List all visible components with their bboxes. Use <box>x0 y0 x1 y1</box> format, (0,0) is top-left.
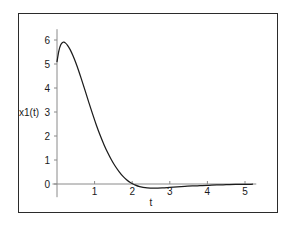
y-axis-title: x1(t) <box>19 107 39 118</box>
x-axis-title: t <box>150 197 153 208</box>
y-tick-label: 2 <box>44 131 50 142</box>
y-tick-label: 6 <box>44 35 50 46</box>
x-axis-ticks: 12345 <box>92 181 248 197</box>
y-tick-label: 3 <box>44 107 50 118</box>
x-tick-label: 1 <box>92 186 98 197</box>
y-axis-ticks: 0123456 <box>44 35 57 190</box>
y-tick-label: 5 <box>44 59 50 70</box>
data-series-group <box>57 42 253 188</box>
figure-root: 12345 0123456 t x1(t) <box>0 0 295 227</box>
x-tick-label: 2 <box>129 186 135 197</box>
chart-canvas: 12345 0123456 t x1(t) <box>0 0 295 227</box>
y-tick-label: 4 <box>44 83 50 94</box>
x-tick-label: 4 <box>205 186 211 197</box>
axes-group <box>52 29 256 197</box>
y-tick-label: 1 <box>44 155 50 166</box>
data-curve-x1 <box>57 42 253 188</box>
y-tick-label: 0 <box>44 179 50 190</box>
x-tick-label: 5 <box>242 186 248 197</box>
